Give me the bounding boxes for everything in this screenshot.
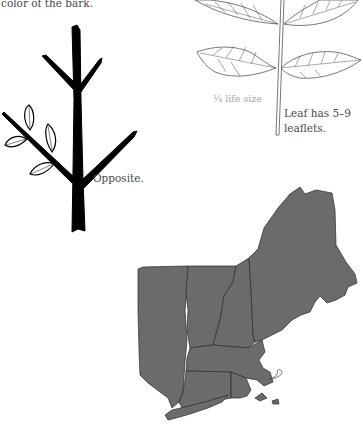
map-state-maine — [249, 187, 357, 342]
map-island-marthas-vineyard — [255, 393, 267, 401]
map-island-nantucket — [272, 399, 279, 404]
range-map-icon — [0, 0, 363, 424]
map-state-new-york — [138, 266, 188, 408]
